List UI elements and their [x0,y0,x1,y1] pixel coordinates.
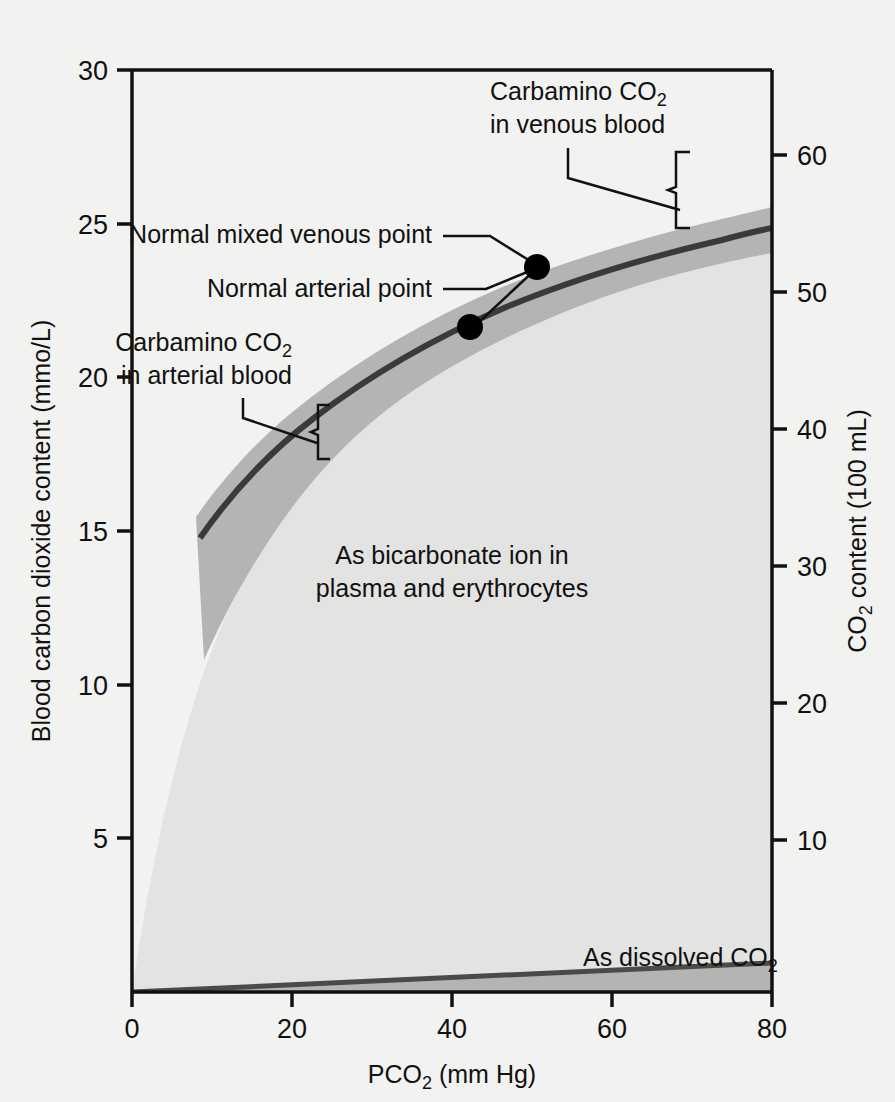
annotation-carbamino-venous-line2: in venous blood [490,110,665,138]
bottom-tick-0: 0 [124,1014,139,1044]
bottom-axis-title-main: PCO [368,1060,422,1088]
bottom-axis-title-rest: (mm Hg) [432,1060,536,1088]
right-axis-title-main: CO [843,615,871,653]
right-tick-5: 10 [797,826,827,856]
annotation-carbamino-arterial-line2: in arterial blood [121,361,292,389]
right-tick-2: 40 [797,415,827,445]
left-tick-3: 15 [78,517,108,547]
annotation-bicarbonate-line2: plasma and erythrocytes [316,574,588,602]
bottom-axis-title-sub: 2 [422,1073,432,1093]
annotation-normal-arterial: Normal arterial point [207,274,432,302]
right-tick-1: 50 [797,278,827,308]
bottom-tick-4: 80 [757,1014,787,1044]
point-normal-arterial[interactable] [457,314,483,340]
right-axis-title-sub: 2 [856,605,876,615]
bottom-tick-1: 20 [277,1014,307,1044]
annotation-bicarbonate-line1: As bicarbonate ion in [335,541,568,569]
bottom-tick-2: 40 [437,1014,467,1044]
bottom-tick-3: 60 [597,1014,627,1044]
annotation-normal-mixed-venous: Normal mixed venous point [129,220,432,248]
right-axis-title-rest: content (100 mL) [843,409,871,605]
left-axis-title: Blood carbon dioxide content (mmo/L) [27,320,55,742]
left-tick-2: 20 [78,363,108,393]
point-normal-mixed-venous[interactable] [524,254,550,280]
left-tick-1: 25 [78,210,108,240]
co2-dissociation-chart: 30 25 20 15 10 5 Blood carbon dioxide co… [0,0,895,1102]
right-tick-3: 30 [797,552,827,582]
figure-container: 30 25 20 15 10 5 Blood carbon dioxide co… [0,0,895,1102]
left-tick-5: 5 [93,824,108,854]
left-tick-0: 30 [78,56,108,86]
right-tick-4: 20 [797,689,827,719]
right-tick-0: 60 [797,141,827,171]
left-tick-4: 10 [78,671,108,701]
